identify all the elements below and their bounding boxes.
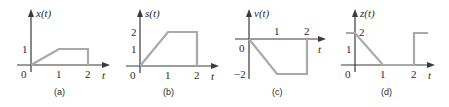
x-tick-2: 2 — [304, 25, 310, 37]
y-tick-2: 2 — [131, 26, 137, 38]
x-axis-label: t — [102, 69, 106, 81]
panel-d: z(t) t 0 1 2 1 2 (d) — [341, 7, 435, 97]
panel-a: x(t) t 0 1 2 1 (a) — [17, 7, 110, 97]
x-axis-label: t — [428, 69, 432, 81]
x-tick-2: 2 — [85, 68, 91, 80]
y-tick-2: 2 — [359, 26, 365, 38]
y-tick-minus-2: −2 — [234, 68, 246, 80]
x-axis-arrow-icon — [211, 63, 219, 69]
x-axis-arrow-icon — [427, 62, 435, 68]
x-axis-label: t — [211, 70, 215, 82]
y-axis-label: z(t) — [359, 7, 375, 20]
x-tick-2: 2 — [194, 69, 200, 81]
y-tick-1: 1 — [346, 43, 352, 55]
panel-caption: (a) — [54, 87, 65, 97]
y-axis-label: s(t) — [145, 7, 160, 20]
x-axis-label: t — [318, 43, 322, 55]
panel-b: s(t) t 0 1 2 1 2 (b) — [126, 7, 219, 97]
signal-curve — [249, 39, 307, 74]
panel-c: v(t) t 0 1 2 −2 (c) — [234, 7, 326, 97]
panel-caption: (d) — [381, 87, 392, 97]
origin-label: 0 — [130, 69, 136, 81]
y-tick-1: 1 — [131, 43, 137, 55]
origin-label: 0 — [345, 68, 351, 80]
panel-caption: (b) — [163, 87, 174, 97]
y-axis-label: x(t) — [35, 7, 52, 20]
y-axis-arrow-icon — [28, 9, 34, 17]
x-tick-1: 1 — [165, 69, 171, 81]
x-tick-1: 1 — [56, 68, 62, 80]
y-axis-label: v(t) — [254, 7, 270, 20]
signal-curve — [31, 49, 88, 65]
panel-caption: (c) — [272, 87, 283, 97]
x-axis-arrow-icon — [318, 36, 326, 42]
y-axis-arrow-icon — [246, 9, 252, 17]
y-axis-arrow-icon — [137, 9, 143, 17]
x-tick-1: 1 — [380, 68, 386, 80]
origin-label: 0 — [21, 68, 27, 80]
x-tick-1: 1 — [274, 25, 280, 37]
x-tick-2: 2 — [411, 68, 417, 80]
signal-figure: x(t) t 0 1 2 1 (a) s(t) t 0 1 2 1 2 (b) … — [0, 0, 449, 107]
signal-curve — [140, 32, 197, 66]
origin-label: 0 — [239, 42, 245, 54]
x-axis-arrow-icon — [102, 62, 110, 68]
y-tick-1: 1 — [22, 43, 28, 55]
y-axis-arrow-icon — [352, 9, 358, 17]
